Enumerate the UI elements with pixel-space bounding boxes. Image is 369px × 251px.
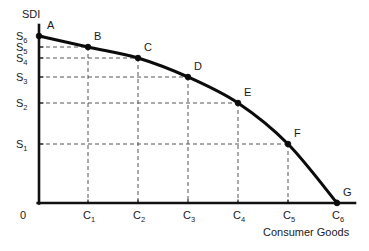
data-point-marker [36, 33, 42, 39]
data-point-marker [185, 74, 191, 80]
data-point-label: F [294, 127, 301, 139]
data-point-marker [235, 100, 241, 106]
data-point-marker [285, 141, 291, 147]
origin-label: 0 [20, 209, 26, 221]
data-point-label: G [343, 186, 352, 198]
data-point-marker [135, 55, 141, 61]
x-axis-title: Consumer Goods [263, 226, 350, 238]
ppf-chart: ABCDEFG S1S2S3S4S5S6 C1C2C3C4C5C6 SDI Co… [0, 0, 369, 251]
data-point-label: E [244, 86, 251, 98]
chart-canvas: ABCDEFG S1S2S3S4S5S6 C1C2C3C4C5C6 SDI Co… [0, 0, 369, 251]
data-point-label: D [194, 60, 202, 72]
data-point-label: A [47, 19, 55, 31]
data-point-label: C [144, 41, 152, 53]
data-point-marker [334, 200, 340, 206]
data-point-label: B [94, 30, 101, 42]
y-axis-title: SDI [22, 8, 40, 20]
data-point-marker [85, 44, 91, 50]
